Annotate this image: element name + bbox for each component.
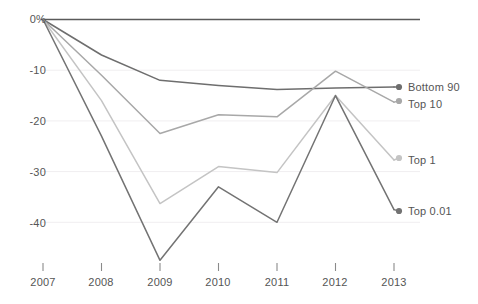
x-tick-label-2007: 2007 bbox=[18, 276, 68, 288]
y-tick-label: -20 bbox=[0, 116, 46, 127]
series-endpoint-markers bbox=[396, 84, 402, 214]
x-tick-label-2012: 2012 bbox=[310, 276, 360, 288]
line-chart: 0% -10 -20 -30 -40 2007 2008 2009 2010 2… bbox=[0, 0, 478, 304]
series-label-top-001: Top 0.01 bbox=[408, 206, 452, 217]
x-tick-label-2009: 2009 bbox=[135, 276, 185, 288]
gridlines bbox=[41, 20, 420, 223]
legend-leader-lines bbox=[394, 87, 399, 211]
y-tick-label: -30 bbox=[0, 167, 46, 178]
y-tick-label: -40 bbox=[0, 218, 46, 229]
y-tick-label: 0% bbox=[0, 14, 46, 25]
series-line-top-1 bbox=[43, 20, 394, 204]
series-line-top-0-01 bbox=[43, 20, 394, 261]
y-tick-label: -10 bbox=[0, 65, 46, 76]
y-tick-4: -40 bbox=[0, 218, 46, 229]
x-tick-label-2013: 2013 bbox=[369, 276, 419, 288]
y-tick-1: -10 bbox=[0, 65, 46, 76]
series-line-top-10 bbox=[43, 20, 394, 134]
series-label-top-10: Top 10 bbox=[408, 99, 442, 110]
x-axis-ticks bbox=[43, 263, 394, 271]
series-label-top-1: Top 1 bbox=[408, 155, 436, 166]
y-tick-0: 0% bbox=[0, 14, 46, 25]
x-tick-label-2011: 2011 bbox=[252, 276, 302, 288]
x-tick-label-2008: 2008 bbox=[76, 276, 126, 288]
y-tick-2: -20 bbox=[0, 116, 46, 127]
chart-plot-area bbox=[0, 0, 478, 304]
series-label-bottom-90: Bottom 90 bbox=[408, 82, 460, 93]
series-lines bbox=[43, 20, 394, 261]
x-tick-label-2010: 2010 bbox=[193, 276, 243, 288]
y-tick-3: -30 bbox=[0, 167, 46, 178]
series-line-bottom-90 bbox=[43, 20, 394, 90]
